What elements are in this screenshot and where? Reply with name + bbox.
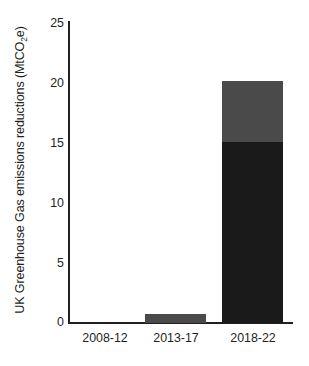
y-axis-title-text: UK Greenhouse Gas emissions reductions (… — [13, 26, 27, 313]
y-axis-title-main: UK Greenhouse Gas emissions reductions (… — [13, 42, 27, 314]
y-tick-label-25: 25 — [38, 17, 64, 29]
y-axis-tick-labels: 25 20 15 10 5 0 — [36, 0, 64, 366]
plot-area — [68, 22, 283, 323]
bar-segment-lower-2018-22 — [222, 142, 283, 323]
bar-2013-17[interactable] — [145, 314, 206, 323]
y-tick-label-10: 10 — [38, 197, 64, 209]
x-tick-label-2018-22: 2018-22 — [208, 332, 298, 344]
x-axis-tick-labels: 2008-12 2013-17 2018-22 — [68, 332, 293, 352]
y-axis-title-suffix: e) — [13, 26, 27, 37]
y-axis-title: UK Greenhouse Gas emissions reductions (… — [0, 0, 40, 340]
y-tick-label-5: 5 — [38, 257, 64, 269]
y-tick-label-20: 20 — [38, 77, 64, 89]
y-tick-label-0: 0 — [38, 316, 64, 328]
y-axis-title-subscript: 2 — [19, 37, 29, 42]
y-tick-label-15: 15 — [38, 137, 64, 149]
bar-segment-upper-2018-22 — [222, 81, 283, 142]
bar-2018-22[interactable] — [222, 81, 283, 323]
chart-figure: UK Greenhouse Gas emissions reductions (… — [0, 0, 309, 366]
bar-segment-upper-2013-17 — [145, 314, 206, 323]
